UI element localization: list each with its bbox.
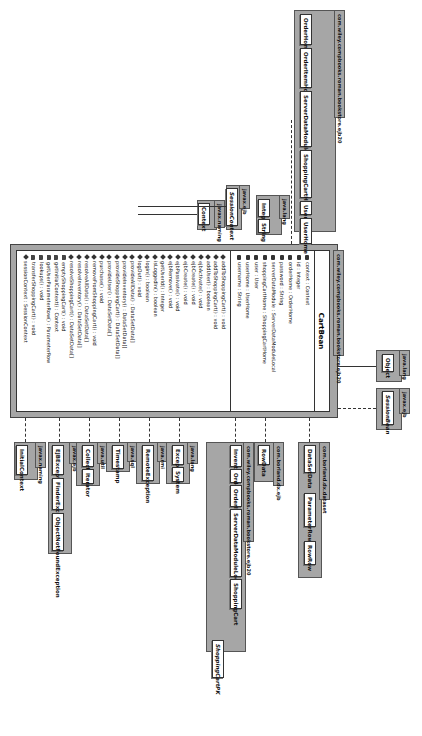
method-row[interactable]: ejbRemove() : void xyxy=(167,255,174,308)
class-serverdatamodulelocalhome[interactable]: ServerDataModuleLocalHome xyxy=(230,509,242,577)
class-rowrow[interactable]: RowRow xyxy=(304,541,316,565)
method-row[interactable]: ejbCreate() : void xyxy=(190,255,197,305)
attribute-row[interactable]: serverDataModule : ServerDataModuleLocal xyxy=(270,255,277,372)
private-field-icon xyxy=(305,255,309,260)
method-row[interactable]: transferShoppingCart() : void xyxy=(30,255,37,335)
public-method-icon xyxy=(183,254,189,260)
attribute-row[interactable]: userHome : UserHome xyxy=(245,255,252,319)
method-row[interactable]: resolveAllData() : DataSetData[] xyxy=(83,255,90,342)
class-collection[interactable]: Collection xyxy=(82,445,94,467)
class-initialcontext[interactable]: InitialContext xyxy=(16,445,28,475)
member-text: password : String xyxy=(280,262,286,306)
public-method-icon xyxy=(129,254,135,260)
method-row[interactable]: getUserId() : Integer xyxy=(159,255,166,312)
method-row[interactable]: isLoggedIn() : boolean xyxy=(152,255,159,317)
public-method-icon xyxy=(198,254,204,260)
member-text: serverDataModule : ServerDataModuleLocal xyxy=(271,262,277,372)
member-text: id : Integer xyxy=(297,262,303,289)
class-ejbexception[interactable]: EJBException xyxy=(52,445,64,475)
method-row[interactable]: provideShoppingCart() : DataSetData[] xyxy=(114,255,121,359)
attribute-row[interactable]: shoppingCartHome : ShoppingCartHome xyxy=(262,255,269,364)
class-order[interactable]: Order xyxy=(230,469,242,483)
class-user[interactable]: User xyxy=(300,201,312,215)
member-text: sessionContext : SessionContext xyxy=(23,261,29,343)
class-parameterrow[interactable]: ParameterRow xyxy=(304,493,316,527)
class-timestamp[interactable]: Timestamp xyxy=(112,445,124,469)
member-text: isLoggedIn() : boolean xyxy=(153,261,159,317)
method-row[interactable]: sessionContext : SessionContext xyxy=(22,255,29,343)
class-sessioncontext[interactable]: SessionContext xyxy=(226,188,238,226)
public-method-icon xyxy=(99,254,105,260)
method-row[interactable]: addToShoppingCart() : void xyxy=(212,255,219,329)
class-inventory[interactable]: Inventory xyxy=(230,445,242,467)
method-row[interactable]: login() : boolean xyxy=(144,255,151,302)
method-row[interactable]: ejbCreate() : void xyxy=(182,255,189,305)
method-row[interactable]: addToShoppingCart() : void xyxy=(220,255,227,329)
public-method-icon xyxy=(175,254,181,260)
attribute-row[interactable]: password : String xyxy=(279,255,286,306)
class-orderitem[interactable]: OrderItem xyxy=(230,485,242,507)
method-row[interactable]: resolveShoppingCart() : DataSetData[] xyxy=(68,255,75,358)
method-row[interactable]: addUser() : boolean xyxy=(205,255,212,311)
class-serverdatamodulelocal[interactable]: ServerDataModuleLocal xyxy=(300,91,312,147)
class-string[interactable]: String xyxy=(258,219,270,233)
divider xyxy=(314,251,315,411)
class-shoppingcart[interactable]: ShoppingCart xyxy=(230,579,242,609)
method-row[interactable]: resolveInventory() : DataSetData[] xyxy=(76,255,83,348)
private-field-icon xyxy=(237,255,241,260)
class-iterator[interactable]: Iterator xyxy=(82,469,94,484)
method-row[interactable]: provideInventory() : DataSetData[] xyxy=(121,255,128,348)
method-row[interactable]: ejbPassivate() : void xyxy=(174,255,181,312)
member-text: ejbPassivate() : void xyxy=(175,261,181,312)
method-row[interactable]: getUserParameterRow() : ParameterRow xyxy=(45,255,52,363)
class-userhome[interactable]: UserHome xyxy=(300,218,312,244)
member-text: getUserId() : Integer xyxy=(160,261,166,312)
member-text: ejbActivate() : void xyxy=(198,261,204,308)
method-row[interactable]: ejbActivate() : void xyxy=(197,255,204,308)
class-integer[interactable]: Integer xyxy=(258,199,270,217)
class-rowdata[interactable]: RowData xyxy=(258,445,270,465)
class-title: CartBean xyxy=(317,251,325,411)
class-orderitemhome[interactable]: OrderItemHome xyxy=(300,48,312,88)
class-objectnotfoundexception[interactable]: ObjectNotFoundException xyxy=(52,513,64,551)
attribute-row[interactable]: username : String xyxy=(236,255,243,307)
package-label: com.borland.dx.ejb xyxy=(273,442,284,486)
member-text: login() : boolean xyxy=(145,261,151,302)
class-finderexception[interactable]: FinderException xyxy=(52,478,64,510)
member-text: context : Context xyxy=(305,262,311,305)
cartbean-class-box[interactable]: CartBean context : Contextid : Integeror… xyxy=(16,250,330,412)
attribute-row[interactable]: context : Context xyxy=(304,255,311,305)
private-method-icon xyxy=(47,255,51,260)
member-text: provideAllData() : DataSetData[] xyxy=(130,261,136,343)
attribute-row[interactable]: id : Integer xyxy=(296,255,303,289)
member-text: ejbRemove() : void xyxy=(168,261,174,308)
method-row[interactable]: lookups() : void xyxy=(38,255,45,301)
class-shoppingcarthome[interactable]: ShoppingCartHome xyxy=(300,150,312,198)
class-shoppingcartpk[interactable]: ShoppingCartPK xyxy=(212,640,224,678)
public-method-icon xyxy=(122,254,128,260)
private-field-icon xyxy=(263,255,267,260)
method-row[interactable]: logOut() : void xyxy=(136,255,143,297)
class-object[interactable]: Object xyxy=(382,354,394,372)
attribute-row[interactable]: orderHome : OrderHome xyxy=(287,255,294,324)
private-field-icon xyxy=(271,255,275,260)
class-sessionbean[interactable]: SessionBean xyxy=(382,391,394,425)
member-text: transferShoppingCart() : void xyxy=(31,262,37,335)
method-row[interactable]: getInitialContext() : Context xyxy=(53,255,60,332)
method-row[interactable]: emptyShoppingCart() : void xyxy=(60,255,67,331)
class-exception[interactable]: Exception xyxy=(172,445,184,465)
class-remoteexception[interactable]: RemoteException xyxy=(142,445,154,481)
method-row[interactable]: purchase() : void xyxy=(98,255,105,303)
public-method-icon xyxy=(23,254,29,260)
class-datasetdata[interactable]: DataSetData xyxy=(304,445,316,473)
public-method-icon xyxy=(145,254,151,260)
class-orderhome[interactable]: OrderHome xyxy=(300,14,312,45)
dependency-line-dataset xyxy=(309,418,310,442)
package-label: java.lang xyxy=(399,350,410,376)
method-row[interactable]: provideUser() : DataSetData[] xyxy=(106,255,113,336)
method-row[interactable]: removeFromShoppingCart() : void xyxy=(91,255,98,346)
attribute-row[interactable]: user : User xyxy=(253,255,260,289)
class-system[interactable]: System xyxy=(172,467,184,482)
private-method-icon xyxy=(54,255,58,260)
method-row[interactable]: provideAllData() : DataSetData[] xyxy=(129,255,136,343)
